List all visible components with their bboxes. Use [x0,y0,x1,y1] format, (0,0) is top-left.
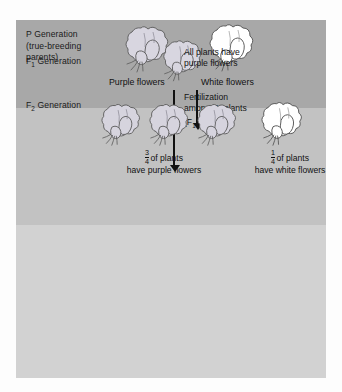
f2-purple-ratio-line2: have purple flowers [94,165,234,176]
p-generation-label-line1: P Generation [26,29,81,41]
purple-flower-icon-f2-1 [100,102,147,147]
fraction-one-quarter: 14 [271,149,275,165]
f2-white-of-plants: of plants [277,153,310,163]
f1-label-suffix: Generation [35,56,81,66]
f2-label-suffix: Generation [35,100,81,110]
f2-purple-ratio-line1: 34of plants [94,149,234,165]
fraction-denominator: 4 [145,157,149,166]
f2-purple-ratio-caption: 34of plants have purple flowers [94,149,234,176]
fraction-numerator: 3 [145,149,149,157]
purple-flower-icon-f2-3 [196,102,243,147]
f1-generation-label: F1 Generation [26,56,81,70]
purple-flowers-caption: Purple flowers [109,77,165,87]
white-flower-icon-f2-4 [260,100,310,148]
f1-note-line1: All plants have [184,47,240,58]
fraction-numerator: 1 [271,149,275,157]
mendel-cross-diagram: P Generation (true-breeding parents) × [16,20,326,378]
f2-purple-of-plants: of plants [151,153,184,163]
f1-note-line2: purple flowers [184,58,240,69]
f1-note: All plants have purple flowers [184,47,240,70]
f2-white-ratio-caption: 14of plants have white flowers [226,149,342,176]
white-flowers-caption: White flowers [201,77,254,87]
band-f2-generation [16,225,326,378]
fraction-denominator: 4 [271,157,275,166]
f2-white-ratio-line1: 14of plants [226,149,342,165]
p-generation-label-line2: (true-breeding [26,41,81,53]
f2-white-ratio-line2: have white flowers [226,165,342,176]
f2-generation-label: F2 Generation [26,100,81,114]
fraction-three-quarters: 34 [145,149,149,165]
purple-flower-icon-f2-2 [148,102,195,147]
